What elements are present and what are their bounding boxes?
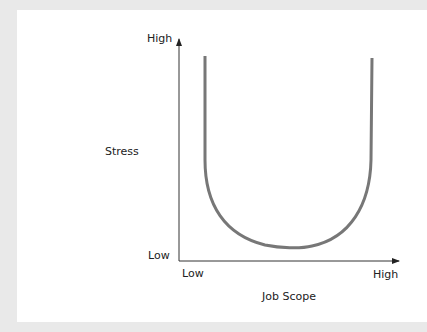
x-axis-high-label: High [373,269,398,280]
y-axis-title: Stress [105,146,139,157]
stress-curve [205,56,372,248]
x-axis-low-label: Low [182,268,204,279]
y-axis-low-label: Low [148,250,170,261]
x-axis-title: Job Scope [262,291,316,302]
y-axis-high-label: High [147,33,172,44]
chart-canvas [0,0,427,332]
